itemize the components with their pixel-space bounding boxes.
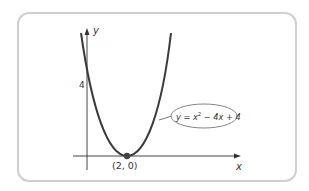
parabola-graph: y x 4 (2, 0) y = x2 − 4x + 4 bbox=[0, 0, 309, 191]
y-axis-label: y bbox=[92, 25, 100, 36]
parabola-curve bbox=[81, 33, 171, 156]
vertex-point bbox=[124, 153, 130, 159]
equation-text: y = x2 − 4x + 4 bbox=[175, 111, 241, 122]
callout-leader bbox=[159, 116, 172, 120]
y-tick-4: 4 bbox=[79, 80, 85, 90]
x-axis-arrow-icon bbox=[234, 154, 241, 159]
equation-rhs: − 4x + 4 bbox=[201, 112, 240, 122]
equation-lhs: y = x bbox=[175, 112, 198, 122]
x-axis-label: x bbox=[235, 161, 242, 172]
vertex-label: (2, 0) bbox=[112, 160, 138, 171]
y-axis-arrow-icon bbox=[85, 28, 90, 35]
